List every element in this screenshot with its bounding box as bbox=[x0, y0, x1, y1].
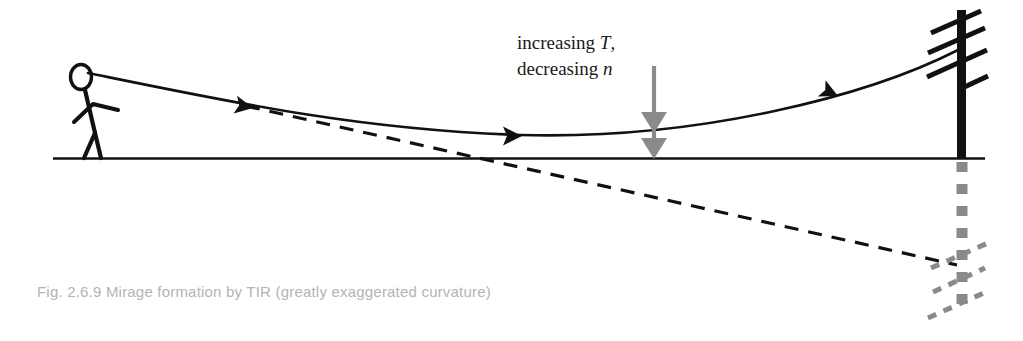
gradient-arrowhead-lower bbox=[641, 138, 667, 159]
figure-caption: Fig. 2.6.9 Mirage formation by TIR (grea… bbox=[37, 283, 491, 300]
symbol-refractive-index: n bbox=[603, 58, 613, 79]
observer-arm bbox=[74, 104, 118, 122]
observer-head-icon bbox=[71, 65, 92, 90]
mirage-figure: increasing T, decreasing n Fig. 2.6.9 Mi… bbox=[0, 0, 1023, 341]
symbol-temperature: T bbox=[600, 32, 611, 53]
gradient-annotation: increasing T, decreasing n bbox=[517, 30, 615, 81]
annotation-suffix-1: , bbox=[610, 32, 615, 53]
annotation-line-increasing-t: increasing T, bbox=[517, 30, 615, 56]
annotation-line-decreasing-n: decreasing n bbox=[517, 56, 615, 82]
ray-arrowhead-middle bbox=[503, 127, 522, 146]
temperature-gradient-arrow bbox=[641, 66, 667, 159]
observer-leg-front bbox=[95, 133, 101, 158]
observer-leg-back bbox=[84, 133, 95, 158]
pole-branch-top bbox=[931, 11, 981, 33]
mirrored-tree-pole bbox=[928, 162, 988, 318]
dashed-apparent-ray bbox=[246, 106, 957, 265]
annotation-prefix-1: increasing bbox=[517, 32, 600, 53]
annotation-prefix-2: decreasing bbox=[517, 58, 603, 79]
real-tree-pole bbox=[927, 10, 988, 159]
